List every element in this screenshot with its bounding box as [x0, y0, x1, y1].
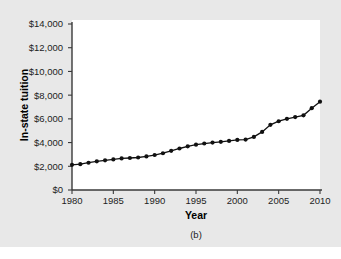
tuition-series-line — [72, 102, 320, 165]
data-point-marker — [277, 119, 281, 123]
data-point-marker — [310, 106, 314, 110]
data-point-marker — [293, 115, 297, 119]
data-point-marker — [235, 138, 239, 142]
y-tick-label: $14,000 — [29, 18, 63, 29]
data-point-marker — [244, 138, 248, 142]
data-point-marker — [128, 156, 132, 160]
x-tick-label: 1995 — [185, 195, 206, 206]
data-point-marker — [260, 130, 264, 134]
y-tick-label: $0 — [52, 184, 63, 195]
data-point-marker — [111, 157, 115, 161]
y-tick-label: $8,000 — [34, 90, 63, 101]
data-point-marker — [70, 163, 74, 167]
line-chart: $0$2,000$4,000$6,000$8,000$10,000$12,000… — [0, 0, 341, 247]
data-point-marker — [120, 156, 124, 160]
figure-caption: (b) — [190, 229, 202, 240]
y-axis-title: In-state tuition — [18, 69, 30, 141]
data-point-marker — [136, 155, 140, 159]
data-point-marker — [252, 135, 256, 139]
data-point-marker — [78, 162, 82, 166]
x-axis-title: Year — [185, 209, 207, 221]
data-point-marker — [186, 144, 190, 148]
data-point-marker — [153, 153, 157, 157]
x-tick-label: 2005 — [268, 195, 289, 206]
x-tick-label: 1985 — [103, 195, 124, 206]
x-tick-label: 2010 — [309, 195, 330, 206]
data-point-marker — [103, 158, 107, 162]
data-point-marker — [285, 117, 289, 121]
data-point-marker — [177, 146, 181, 150]
data-point-marker — [194, 143, 198, 147]
data-point-marker — [169, 149, 173, 153]
data-point-marker — [219, 140, 223, 144]
data-point-marker — [318, 100, 322, 104]
data-point-marker — [227, 139, 231, 143]
x-axis-tick-labels: 1980198519901995200020052010 — [61, 195, 330, 206]
x-tick-label: 2000 — [227, 195, 248, 206]
y-tick-label: $4,000 — [34, 137, 63, 148]
data-point-marker — [161, 151, 165, 155]
data-point-marker — [210, 140, 214, 144]
y-tick-label: $12,000 — [29, 42, 63, 53]
y-axis-tick-labels: $0$2,000$4,000$6,000$8,000$10,000$12,000… — [29, 18, 63, 195]
y-tick-label: $10,000 — [29, 66, 63, 77]
data-point-marker — [144, 154, 148, 158]
tuition-series-markers — [70, 100, 322, 167]
data-point-marker — [202, 141, 206, 145]
data-point-marker — [95, 159, 99, 163]
data-point-marker — [86, 161, 90, 165]
figure-panel: $0$2,000$4,000$6,000$8,000$10,000$12,000… — [0, 0, 341, 247]
y-tick-label: $2,000 — [34, 161, 63, 172]
data-point-marker — [301, 113, 305, 117]
x-tick-label: 1990 — [144, 195, 165, 206]
y-tick-label: $6,000 — [34, 113, 63, 124]
x-tick-label: 1980 — [61, 195, 82, 206]
data-point-marker — [268, 123, 272, 127]
